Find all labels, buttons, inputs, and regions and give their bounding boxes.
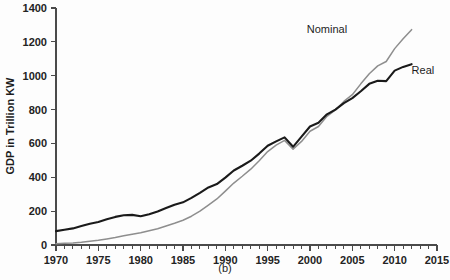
x-tick-label: 2010 xyxy=(382,254,406,266)
x-tick-label: 1970 xyxy=(44,254,68,266)
x-tick-label: 1980 xyxy=(128,254,152,266)
series-annotations: NominalReal xyxy=(307,23,434,76)
x-axis-ticks: 1970197519801985199019952000200520102015 xyxy=(44,245,449,266)
series-label-nominal: Nominal xyxy=(307,23,347,35)
figure-panel: 0200400600800100012001400 19701975198019… xyxy=(0,0,450,280)
x-tick-label: 2015 xyxy=(425,254,449,266)
y-tick-label: 1000 xyxy=(23,70,47,82)
figure-caption: (b) xyxy=(218,262,231,274)
x-tick-label: 1985 xyxy=(171,254,195,266)
y-tick-label: 1400 xyxy=(23,2,47,14)
data-series-group xyxy=(56,30,412,244)
line-chart: 0200400600800100012001400 19701975198019… xyxy=(0,0,450,280)
x-tick-label: 1975 xyxy=(86,254,110,266)
series-line-real xyxy=(56,64,412,231)
y-tick-label: 800 xyxy=(29,104,47,116)
y-tick-label: 200 xyxy=(29,205,47,217)
y-axis-title: GDP in Trillion KW xyxy=(4,77,16,175)
series-line-nominal xyxy=(56,30,412,244)
y-tick-label: 0 xyxy=(41,239,47,251)
x-tick-label: 1995 xyxy=(255,254,279,266)
y-tick-label: 600 xyxy=(29,137,47,149)
y-tick-label: 400 xyxy=(29,171,47,183)
y-tick-label: 1200 xyxy=(23,36,47,48)
series-label-real: Real xyxy=(412,64,435,76)
x-tick-label: 2005 xyxy=(340,254,364,266)
x-tick-label: 2000 xyxy=(298,254,322,266)
x-axis-minor-ticks xyxy=(64,245,428,249)
y-axis-ticks: 0200400600800100012001400 xyxy=(23,2,56,251)
